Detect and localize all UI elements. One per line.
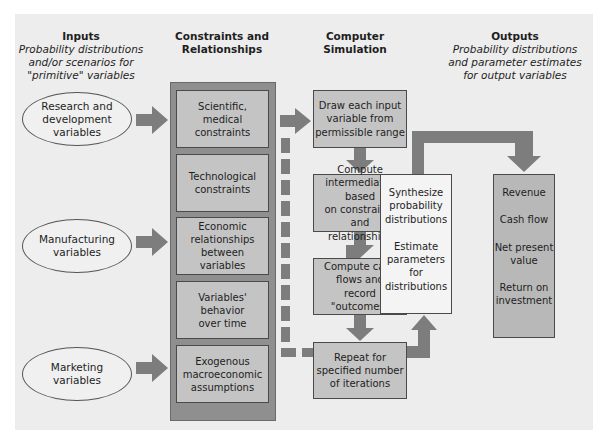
output-npv-line-2: value [494, 254, 554, 267]
output-cash-flow: Cash flow [494, 213, 554, 226]
sim-step-4-line-1: Repeat for [317, 351, 404, 364]
synthesis-box: Synthesize probability distributions Est… [380, 174, 452, 314]
constraint-2-line-1: Technological [189, 170, 256, 183]
constraint-5-line-2: macroeconomic [183, 368, 263, 381]
input-manufacturing-line-2: variables [39, 246, 115, 259]
estimate-line-1: Estimate [381, 240, 451, 253]
constraint-3-line-4: variables [191, 259, 255, 272]
output-npv-line-1: Net present [494, 241, 554, 254]
output-roi-line-1: Return on [494, 281, 554, 294]
sim-step-1-line-1: Draw each input [315, 99, 405, 112]
outputs-box: Revenue Cash flow Net present value Retu… [493, 174, 555, 338]
arrow-to-draw-step [280, 108, 311, 134]
estimate-line-4: distributions [381, 280, 451, 293]
sim-step-repeat-iterations: Repeat for specified number of iteration… [313, 342, 407, 399]
input-research-development: Research and development variables [22, 92, 132, 146]
input-manufacturing: Manufacturing variables [22, 219, 132, 273]
arrow-cashflows-to-repeat [346, 315, 374, 341]
input-manufacturing-line-1: Manufacturing [39, 233, 115, 246]
sim-step-4-line-3: of iterations [317, 377, 404, 390]
constraint-1-line-2: constraints [177, 126, 268, 139]
sim-step-1-line-2: variable from [315, 112, 405, 125]
input-rd-line-1: Research and [41, 100, 112, 113]
sim-step-draw-inputs: Draw each input variable from permissibl… [313, 90, 407, 148]
synthesis-line-1: Synthesize [381, 186, 451, 199]
input-rd-line-3: variables [41, 126, 112, 139]
constraint-3-line-1: Economic [191, 220, 255, 233]
input-marketing-line-1: Marketing [51, 361, 103, 374]
constraint-economic-relationships: Economic relationships between variables [176, 217, 269, 275]
sim-step-1-line-3: permissible range [315, 126, 405, 139]
constraint-variables-behavior: Variables' behavior over time [176, 281, 269, 339]
sim-step-4-line-2: specified number [317, 364, 404, 377]
estimate-line-3: for [381, 266, 451, 279]
input-marketing-line-2: variables [51, 374, 103, 387]
arrow-marketing-to-constraints [136, 354, 168, 382]
constraint-2-line-2: constraints [189, 183, 256, 196]
constraint-5-line-1: Exogenous [183, 355, 263, 368]
estimate-line-2: parameters [381, 253, 451, 266]
constraint-scientific-medical: Scientific, medical constraints [176, 90, 269, 148]
synthesis-line-3: distributions [381, 213, 451, 226]
dashed-feedback-line [281, 138, 313, 357]
constraint-exogenous-macroeconomic: Exogenous macroeconomic assumptions [176, 345, 269, 403]
input-marketing: Marketing variables [22, 347, 132, 401]
synthesis-line-2: probability [381, 199, 451, 212]
constraint-4-line-1: Variables' [198, 291, 246, 304]
input-rd-line-2: development [41, 113, 112, 126]
constraint-4-line-3: over time [198, 317, 246, 330]
constraint-1-line-1: Scientific, medical [177, 100, 268, 126]
output-revenue: Revenue [494, 186, 554, 199]
arrow-repeat-to-synthesis [407, 315, 437, 358]
arrow-synthesis-to-outputs [412, 131, 541, 174]
output-roi-line-2: investment [494, 294, 554, 307]
arrow-manufacturing-to-constraints [136, 228, 168, 256]
constraint-3-line-2: relationships [191, 233, 255, 246]
constraint-5-line-3: assumptions [183, 381, 263, 394]
constraint-3-line-3: between [191, 246, 255, 259]
constraint-4-line-2: behavior [198, 304, 246, 317]
arrow-rd-to-constraints [136, 106, 168, 134]
constraint-technological: Technological constraints [176, 154, 269, 212]
